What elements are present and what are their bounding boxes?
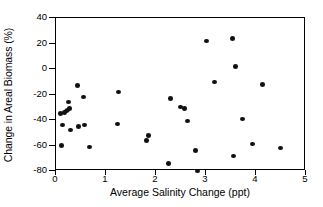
data-point: [212, 80, 217, 84]
y-axis-tick-label: 0: [21, 63, 47, 73]
y-axis-tick-label: -60: [21, 140, 47, 150]
data-point: [75, 83, 80, 87]
data-point: [250, 142, 255, 146]
x-axis-tick-mark: [305, 170, 306, 175]
data-point: [66, 100, 71, 104]
data-point: [182, 106, 187, 110]
data-point: [116, 90, 121, 94]
y-axis-tick-label: 40: [21, 12, 47, 22]
y-axis-tick-label: 20: [21, 38, 47, 48]
x-axis-label: Average Salinity Change (ppt): [55, 186, 305, 198]
data-point: [260, 82, 265, 86]
y-axis-tick-label: -80: [21, 165, 47, 175]
data-point: [146, 133, 151, 137]
data-point: [240, 117, 245, 121]
plot-data-area: [56, 18, 304, 169]
y-axis-label: Change in Areal Biomass (%): [0, 10, 16, 180]
data-point: [168, 96, 173, 100]
data-point: [115, 122, 120, 126]
data-point: [67, 106, 72, 110]
data-point: [233, 64, 238, 68]
data-point: [60, 123, 65, 127]
data-point: [185, 119, 190, 123]
x-axis-tick-mark: [255, 170, 256, 175]
scatter-chart-figure: Change in Areal Biomass (%) Average Sali…: [0, 0, 323, 207]
data-point: [231, 154, 236, 158]
x-axis-tick-mark: [105, 170, 106, 175]
y-axis-tick-label: -40: [21, 114, 47, 124]
data-point: [68, 128, 73, 132]
data-point: [204, 39, 209, 43]
x-axis-tick-mark: [55, 170, 56, 175]
data-point: [82, 123, 87, 127]
data-point: [87, 145, 92, 149]
plot-frame: [55, 17, 305, 170]
x-axis-tick-mark: [205, 170, 206, 175]
data-point: [144, 138, 149, 142]
data-point: [59, 143, 64, 147]
data-point: [166, 161, 171, 165]
y-axis-tick-label: -20: [21, 89, 47, 99]
data-point: [230, 36, 235, 40]
data-point: [193, 148, 198, 152]
data-point: [81, 95, 86, 99]
data-point: [195, 169, 200, 173]
data-point: [76, 124, 81, 128]
x-axis-tick-mark: [155, 170, 156, 175]
data-point: [278, 146, 283, 150]
